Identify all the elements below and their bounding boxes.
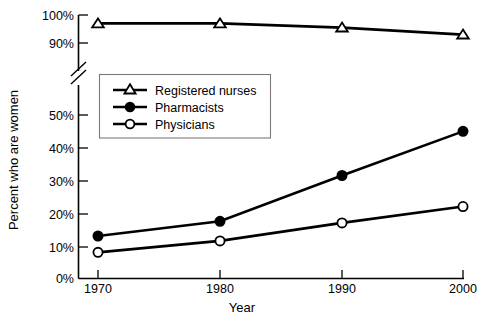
filled-circle-icon <box>458 127 467 136</box>
series-registered-nurses <box>92 18 469 38</box>
y-tick-marks <box>79 15 89 247</box>
legend-label-pharmacists: Pharmacists <box>155 101 224 115</box>
x-tick-labels: 1970 1980 1990 2000 <box>84 282 477 296</box>
series-line-pharmacists <box>98 131 463 236</box>
chart-legend: Registered nurses Pharmacists Physicians <box>100 75 271 139</box>
filled-circle-icon <box>93 231 102 240</box>
legend-label-registered-nurses: Registered nurses <box>155 84 256 98</box>
open-circle-icon <box>458 202 467 211</box>
y-tick-label-100: 100% <box>42 9 74 23</box>
x-tick-label-2000: 2000 <box>449 282 477 296</box>
axis-break-slash-lower <box>71 70 86 84</box>
x-tick-label-1970: 1970 <box>84 282 112 296</box>
y-tick-labels: 100% 90% 50% 40% 30% 20% 10% 0% <box>42 9 74 286</box>
y-tick-label-40: 40% <box>49 142 74 156</box>
series-markers-nurses <box>92 18 469 38</box>
axes-group <box>71 15 464 279</box>
series-pharmacists <box>93 127 467 241</box>
series-line-nurses <box>98 23 463 34</box>
y-tick-label-0: 0% <box>56 272 74 286</box>
open-circle-icon <box>93 248 102 257</box>
y-axis-title: Percent who are women <box>6 90 21 230</box>
x-tick-label-1990: 1990 <box>328 282 356 296</box>
chart-container: 100% 90% 50% 40% 30% 20% 10% 0% 1970 198… <box>0 0 485 321</box>
x-tick-marks <box>98 270 463 279</box>
open-circle-icon <box>126 120 135 129</box>
y-tick-label-20: 20% <box>49 208 74 222</box>
y-tick-label-50: 50% <box>49 109 74 123</box>
x-axis-title: Year <box>229 300 256 315</box>
y-tick-label-10: 10% <box>49 241 74 255</box>
series-markers-pharmacists <box>93 127 467 241</box>
filled-circle-icon <box>215 217 224 226</box>
open-circle-icon <box>337 218 346 227</box>
filled-circle-icon <box>126 103 135 112</box>
line-chart: 100% 90% 50% 40% 30% 20% 10% 0% 1970 198… <box>0 0 485 321</box>
open-circle-icon <box>215 236 224 245</box>
legend-label-physicians: Physicians <box>155 118 215 132</box>
y-tick-label-90: 90% <box>49 37 74 51</box>
x-tick-label-1980: 1980 <box>206 282 234 296</box>
y-tick-label-30: 30% <box>49 175 74 189</box>
filled-circle-icon <box>337 171 346 180</box>
